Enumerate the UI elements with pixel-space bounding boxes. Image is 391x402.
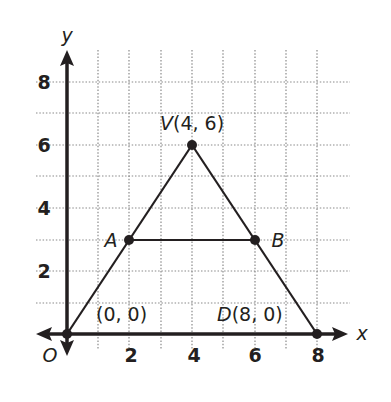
origin-label: O xyxy=(43,344,58,366)
x-tick-4: 4 xyxy=(187,344,200,366)
x-tick-2: 2 xyxy=(124,344,137,366)
y-tick-6: 6 xyxy=(37,134,50,156)
y-tick-8: 8 xyxy=(37,71,50,93)
point-V-label: V(4, 6) xyxy=(160,112,224,134)
y-axis-label: y xyxy=(60,24,73,46)
coordinate-plane: 8 6 4 2 2 4 6 8 y x O V(4, 6) A B (0, 0)… xyxy=(0,0,391,402)
point-A-label: A xyxy=(103,229,118,251)
point-V xyxy=(187,140,197,150)
grid xyxy=(36,50,350,350)
x-tick-labels: 2 4 6 8 xyxy=(124,344,324,366)
point-O-coords-label: (0, 0) xyxy=(96,303,147,325)
y-tick-4: 4 xyxy=(37,197,50,219)
point-O xyxy=(62,329,72,339)
point-D-label: D(8, 0) xyxy=(217,303,283,325)
point-D xyxy=(312,329,322,339)
point-B-label: B xyxy=(271,229,284,251)
y-tick-2: 2 xyxy=(37,260,50,282)
point-B xyxy=(250,235,260,245)
x-tick-6: 6 xyxy=(248,344,261,366)
x-axis-label: x xyxy=(355,322,368,344)
point-A xyxy=(124,235,134,245)
x-tick-8: 8 xyxy=(311,344,324,366)
